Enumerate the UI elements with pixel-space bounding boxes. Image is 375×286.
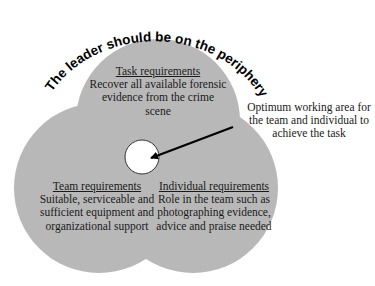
task-requirements-label: Task requirements Recover all available … bbox=[88, 65, 228, 118]
optimum-area-annotation: Optimum working area for the team and in… bbox=[244, 101, 374, 141]
task-requirements-body: Recover all available forensic evidence … bbox=[88, 78, 228, 118]
individual-requirements-label: Individual requirements Role in the team… bbox=[148, 180, 280, 233]
individual-requirements-title: Individual requirements bbox=[148, 180, 280, 193]
task-requirements-title: Task requirements bbox=[88, 65, 228, 78]
individual-requirements-body: Role in the team such as photographing e… bbox=[148, 193, 280, 233]
task-circle bbox=[76, 39, 240, 203]
three-circle-diagram: The leader should be on the periphery lo… bbox=[0, 0, 375, 286]
